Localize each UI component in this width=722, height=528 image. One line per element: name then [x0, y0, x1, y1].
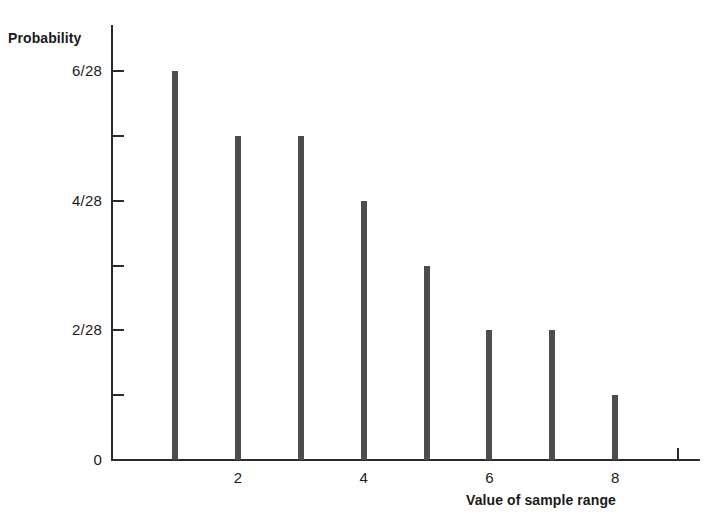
y-axis-tick: [113, 265, 124, 267]
x-axis-tick: [677, 448, 679, 459]
bar: [298, 136, 304, 460]
y-axis-tick-label-text: 6/28: [2, 63, 102, 78]
y-axis-tick-label: 6/28: [0, 63, 102, 78]
y-axis-tick: [113, 394, 124, 396]
bar: [235, 136, 241, 460]
y-axis-tick-label: 4/28: [0, 193, 102, 208]
y-axis-tick-label: 2/28: [0, 322, 102, 337]
bar: [612, 395, 618, 460]
y-axis-tick: [113, 200, 124, 202]
y-axis-tick: [113, 70, 124, 72]
bar: [486, 330, 492, 460]
x-axis-tick-label: 2: [218, 470, 258, 485]
x-axis-tick-label: 4: [344, 470, 384, 485]
y-axis-tick: [113, 329, 124, 331]
y-axis-tick-label-text: 4/28: [2, 193, 102, 208]
x-axis-tick-label: 8: [595, 470, 635, 485]
y-axis-tick: [113, 135, 124, 137]
x-axis-title: Value of sample range: [466, 492, 616, 508]
bar: [361, 201, 367, 460]
y-axis-tick: [113, 459, 124, 461]
y-axis-tick-label: 0: [0, 452, 102, 467]
y-axis-tick-label-text: 0: [2, 452, 102, 467]
x-axis-tick-label: 6: [469, 470, 509, 485]
probability-bar-chart: Probability Value of sample range 02/284…: [0, 0, 722, 528]
bar: [549, 330, 555, 460]
y-axis-title: Probability: [8, 30, 81, 46]
y-axis-tick-label-text: 2/28: [2, 322, 102, 337]
bar: [424, 266, 430, 460]
bar: [172, 71, 178, 460]
